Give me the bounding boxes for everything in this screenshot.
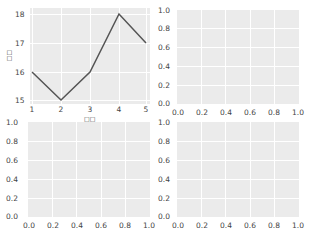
x-axis-label: □□ [84,115,95,122]
y-tick: 1.0 [158,118,170,127]
x-tick: 5 [144,105,149,114]
x-tick: 4 [117,105,122,114]
y-tick: 0.0 [158,99,170,108]
x-tick: 0.0 [172,221,184,230]
x-tick: 0.2 [47,221,59,230]
y-tick: 17 [15,39,25,48]
axes-top-right [177,10,299,104]
axes-top-left [30,8,150,104]
axes-bottom-left [28,122,150,217]
y-tick: 1.0 [6,118,18,127]
x-tick: 0.2 [196,108,208,117]
y-tick: 1.0 [158,6,170,15]
x-tick: 1.0 [143,221,155,230]
x-tick: 0.2 [196,221,208,230]
y-tick: 15 [15,96,25,105]
y-tick: 0.6 [158,43,170,52]
x-tick: 0.4 [220,108,232,117]
axes-bottom-right [177,122,299,217]
y-tick: 0.0 [158,212,170,221]
x-tick: 0.0 [23,221,35,230]
x-tick: 1.0 [292,221,304,230]
y-tick: 0.8 [158,24,170,33]
y-tick: 0.2 [158,81,170,90]
y-tick: 0.4 [6,175,18,184]
y-tick: 0.4 [158,175,170,184]
x-tick: 0.4 [220,221,232,230]
y-tick: 0.4 [158,62,170,71]
line-series [30,8,150,104]
x-tick: 0.8 [119,221,131,230]
x-tick: 0.8 [268,221,280,230]
y-tick: 18 [15,10,25,19]
x-tick: 1.0 [292,108,304,117]
y-tick: 16 [15,68,25,77]
y-axis-label: □□ [5,50,12,61]
x-tick: 0.4 [71,221,83,230]
x-tick: 0.6 [244,108,256,117]
x-tick: 0.6 [244,221,256,230]
x-tick: 3 [88,105,93,114]
x-tick: 1 [30,105,35,114]
y-tick: 0.2 [158,194,170,203]
y-tick: 0.6 [158,156,170,165]
x-tick: 0.0 [172,108,184,117]
x-tick: 0.8 [268,108,280,117]
y-tick: 0.2 [6,194,18,203]
y-tick: 0.0 [6,212,18,221]
x-tick: 0.6 [95,221,107,230]
y-tick: 0.8 [158,137,170,146]
y-tick: 0.8 [6,137,18,146]
x-tick: 2 [59,105,64,114]
y-tick: 0.6 [6,156,18,165]
